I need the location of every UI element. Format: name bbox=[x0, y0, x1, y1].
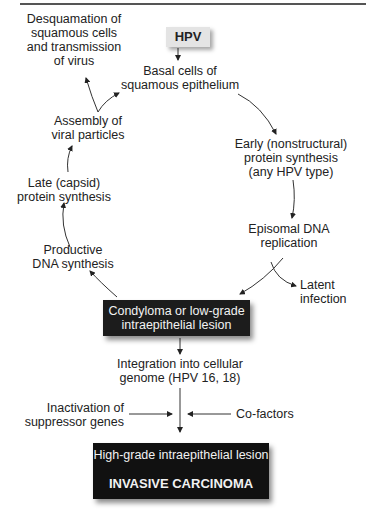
basal-cells-line-2: squamous epithelium bbox=[118, 78, 242, 92]
latent-line-1: Latent bbox=[300, 278, 350, 292]
desquamation-line-1: Desquamation of bbox=[22, 12, 126, 26]
latent-line-2: infection bbox=[300, 292, 350, 306]
assembly-line-2: viral particles bbox=[40, 128, 136, 142]
episomal-dna-line-1: Episomal DNA bbox=[244, 222, 334, 236]
condyloma-box: Condyloma or low-grade intraepithelial l… bbox=[103, 300, 250, 336]
cofactors-node: Co-factors bbox=[236, 407, 296, 421]
productive-dna-node: Productive DNA synthesis bbox=[28, 243, 118, 271]
invasive-carcinoma-label: INVASIVE CARCINOMA bbox=[93, 476, 269, 491]
late-protein-node: Late (capsid) protein synthesis bbox=[14, 176, 114, 204]
late-protein-line-2: protein synthesis bbox=[14, 190, 114, 204]
early-protein-line-3: (any HPV type) bbox=[226, 165, 356, 179]
high-grade-box: High-grade intraepithelial lesion INVASI… bbox=[93, 443, 269, 499]
inactivation-line-1: Inactivation of bbox=[24, 401, 124, 415]
condyloma-line-2: intraepithelial lesion bbox=[103, 318, 250, 332]
desquamation-line-3: and transmission bbox=[22, 40, 126, 54]
condyloma-line-1: Condyloma or low-grade bbox=[103, 304, 250, 318]
integration-line-2: genome (HPV 16, 18) bbox=[112, 371, 248, 385]
integration-node: Integration into cellular genome (HPV 16… bbox=[112, 357, 248, 385]
hpv-node: HPV bbox=[166, 27, 210, 47]
early-protein-node: Early (nonstructural) protein synthesis … bbox=[226, 137, 356, 179]
desquamation-line-2: squamous cells bbox=[22, 26, 126, 40]
integration-line-1: Integration into cellular bbox=[112, 357, 248, 371]
early-protein-line-2: protein synthesis bbox=[226, 151, 356, 165]
productive-dna-line-1: Productive bbox=[28, 243, 118, 257]
episomal-dna-line-2: replication bbox=[244, 236, 334, 250]
inactivation-node: Inactivation of suppressor genes bbox=[24, 401, 124, 429]
late-protein-line-1: Late (capsid) bbox=[14, 176, 114, 190]
episomal-dna-node: Episomal DNA replication bbox=[244, 222, 334, 250]
inactivation-line-2: suppressor genes bbox=[24, 415, 124, 429]
assembly-node: Assembly of viral particles bbox=[40, 114, 136, 142]
high-grade-label: High-grade intraepithelial lesion bbox=[93, 448, 269, 462]
latent-infection-node: Latent infection bbox=[300, 278, 350, 306]
assembly-line-1: Assembly of bbox=[40, 114, 136, 128]
productive-dna-line-2: DNA synthesis bbox=[28, 257, 118, 271]
desquamation-node: Desquamation of squamous cells and trans… bbox=[22, 12, 126, 68]
desquamation-line-4: of virus bbox=[22, 54, 126, 68]
basal-cells-line-1: Basal cells of bbox=[118, 64, 242, 78]
early-protein-line-1: Early (nonstructural) bbox=[226, 137, 356, 151]
basal-cells-node: Basal cells of squamous epithelium bbox=[118, 64, 242, 92]
